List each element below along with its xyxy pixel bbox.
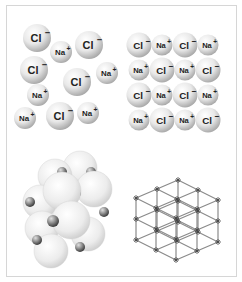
lattice-bond [136,189,157,198]
ion-charge: + [213,38,217,45]
chloride-ion: Cl− [150,58,175,83]
chloride-ion: Cl− [75,31,103,59]
ion-label: Na [82,109,93,118]
sodium-ion: Na+ [96,62,118,84]
lattice-bond [176,230,197,239]
ion-charge: + [190,113,194,120]
ion-label: Cl [202,115,212,126]
ion-charge: − [97,35,103,45]
ion-charge: − [215,112,220,121]
ion-label: Na [133,66,143,75]
lattice-node [215,239,221,245]
sodium-sphere [99,207,109,217]
lattice-bond [157,189,177,199]
ion-charge: − [42,60,48,70]
sodium-sphere [75,242,85,252]
ion-charge: + [167,38,171,45]
lattice-bond [177,220,197,230]
ion-charge: + [44,88,48,95]
sodium-ion: Na+ [152,35,173,56]
lattice-bond [136,210,157,219]
ion-label: Cl [31,32,42,44]
sodium-ion: Na+ [152,85,173,106]
lattice-node [175,177,181,183]
ion-charge: + [144,113,148,120]
panel-lattice-model [133,177,221,263]
ion-label: Cl [28,64,39,76]
ion-label: Na [156,41,166,50]
sodium-ion: Na+ [175,110,196,131]
chloride-ion: Cl− [173,83,198,108]
ion-label: Cl [71,76,82,88]
lattice-node [133,237,139,243]
lattice-bond [157,231,177,241]
sodium-ion: Na+ [175,60,196,81]
lattice-node [154,186,160,192]
ion-label: Na [202,41,212,50]
lattice-bond [156,250,176,260]
lattice-bond [136,231,157,240]
lattice-node [173,257,179,263]
lattice-bond [177,211,198,220]
ion-charge: − [45,28,51,38]
lattice-node [195,187,201,193]
sodium-sphere [32,235,42,245]
ion-charge: + [167,88,171,95]
lattice-bond [157,180,178,189]
ion-charge: − [146,37,151,46]
ion-charge: − [215,62,220,71]
lattice-bond [198,211,218,221]
sodium-ion: Na+ [198,85,219,106]
lattice-bond [177,199,197,209]
lattice-node [215,197,221,203]
lattice-node [133,195,139,201]
ion-charge: − [68,106,74,116]
sodium-ion: Na+ [50,41,72,63]
ion-charge: + [113,66,117,73]
ion-label: Na [55,48,66,57]
lattice-bond [136,198,156,208]
ion-charge: + [94,106,98,113]
ion-label: Cl [179,90,189,101]
lattice-bond [177,232,198,241]
lattice-bond [136,219,156,229]
sodium-sphere [25,197,35,207]
lattice-node [194,248,200,254]
lattice-node [215,218,221,224]
ion-label: Na [133,116,143,125]
ion-label: Na [179,116,189,125]
lattice-node [153,247,159,253]
lattice-bond [197,221,218,230]
panel-disordered-ions: Cl−Na+Cl−Cl−Cl−Na+Na+Na+Cl−Na+ [14,24,118,130]
lattice-bond [198,190,218,200]
lattice-node [133,216,139,222]
ion-label: Cl [83,39,94,51]
chloride-ion: Cl− [127,33,152,58]
lattice-bond [177,190,198,199]
chloride-ion: Cl− [196,58,221,83]
sodium-sphere [47,215,59,227]
ion-label: Na [19,114,30,123]
ion-label: Cl [179,40,189,51]
lattice-bond [157,222,178,231]
sodium-ion: Na+ [198,35,219,56]
ion-charge: − [169,62,174,71]
ion-label: Na [179,66,189,75]
chloride-ion: Cl− [46,102,74,130]
lattice-bond [197,200,218,209]
lattice-bond [176,251,197,260]
ion-label: Cl [54,110,65,122]
lattice-bond [156,199,177,208]
ion-label: Na [101,69,112,78]
nacl-crystal-figure: Cl−Na+Cl−Cl−Cl−Na+Na+Na+Cl−Na+ Cl−Na+Cl−… [0,0,242,282]
chloride-sphere [76,171,112,207]
ion-charge: + [31,111,35,118]
ion-charge: + [67,45,71,52]
lattice-bond [157,210,177,220]
chloride-ion: Cl− [196,108,221,133]
lattice-bond [157,201,178,210]
lattice-bond [176,209,197,218]
ion-charge: − [192,37,197,46]
chloride-ion: Cl− [23,24,51,52]
lattice-bond [136,240,156,250]
